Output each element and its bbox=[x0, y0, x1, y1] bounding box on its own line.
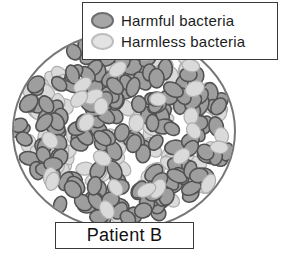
harmful-bacteria-swatch-icon bbox=[91, 12, 114, 29]
legend-item-harmless: Harmless bacteria bbox=[91, 33, 277, 50]
legend-box: Harmful bacteria Harmless bacteria bbox=[82, 2, 278, 60]
bacterium-harmful bbox=[146, 114, 159, 131]
legend-item-label: Harmless bacteria bbox=[121, 33, 245, 50]
bacterium-harmful bbox=[149, 68, 164, 88]
legend-item-harmful: Harmful bacteria bbox=[91, 12, 277, 29]
legend-item-label: Harmful bacteria bbox=[121, 12, 234, 29]
harmless-bacteria-swatch-icon bbox=[91, 33, 114, 50]
dish-label-box: Patient B bbox=[55, 222, 194, 249]
diagram-canvas: Harmful bacteria Harmless bacteria Patie… bbox=[0, 0, 283, 253]
bacterium-harmless bbox=[150, 93, 167, 106]
dish-label: Patient B bbox=[87, 225, 163, 246]
